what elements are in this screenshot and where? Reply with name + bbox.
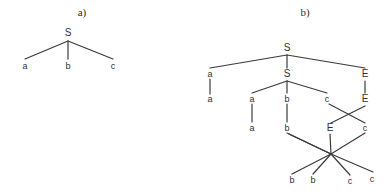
tree-node-b-l3-E: E — [327, 123, 334, 133]
tree-node-b-leaf-b2: b — [310, 176, 315, 185]
tree-edge — [210, 55, 287, 68]
tree-node-b-root-S: S — [284, 43, 291, 53]
tree-edge — [330, 134, 331, 154]
tree-edge — [287, 55, 365, 68]
tree-edge-layer — [0, 0, 391, 194]
tree-node-a-leaf-2: b — [65, 62, 70, 71]
tree-node-b-leaf-b1: b — [289, 176, 294, 185]
tree-edge — [292, 154, 331, 174]
tree-edge — [289, 134, 331, 154]
tree-edge — [331, 154, 350, 175]
tree-node-b-leaf-c2: c — [370, 175, 375, 184]
tree-node-b-l3-c: c — [363, 124, 368, 133]
tree-node-b-l1-S: S — [284, 69, 291, 79]
tree-edge — [329, 104, 365, 123]
tree-node-b-leaf-c1: c — [348, 177, 353, 186]
panel-label-b: b) — [300, 6, 309, 18]
tree-node-b-l3-b: b — [284, 124, 289, 133]
tree-node-b-l1-E: E — [362, 69, 369, 79]
tree-node-b-l2-a-inner: a — [249, 95, 254, 104]
tree-node-b-l1-a: a — [207, 70, 212, 79]
tree-edge — [68, 41, 113, 59]
tree-edge — [252, 81, 287, 93]
tree-edge — [331, 133, 365, 154]
tree-node-a-leaf-1: a — [22, 62, 27, 71]
tree-node-b-l2-a-outer: a — [207, 95, 212, 104]
tree-edge — [25, 41, 68, 59]
tree-node-b-l2-E: E — [362, 94, 369, 104]
tree-node-b-l3-a: a — [249, 124, 254, 133]
tree-node-a-leaf-3: c — [111, 62, 116, 71]
tree-edge — [331, 154, 373, 172]
panel-label-a: a) — [78, 6, 87, 18]
tree-edge — [287, 81, 327, 93]
tree-node-b-l2-c: c — [325, 95, 330, 104]
parse-tree-figure: SabcSaSEaabcEabEcbbcca)b) — [0, 0, 391, 194]
tree-node-b-l2-b: b — [284, 95, 289, 104]
tree-node-a-root: S — [65, 28, 72, 38]
tree-edge — [313, 154, 331, 174]
